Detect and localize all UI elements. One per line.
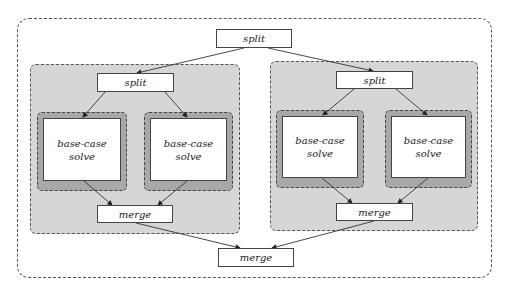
leaf-label-line2: solve — [416, 147, 442, 160]
right-leaf-node-2: base-case solve — [391, 116, 466, 178]
left-split-label: split — [125, 76, 147, 89]
leaf-label-line1: base-case — [164, 137, 213, 150]
left-split-node: split — [97, 73, 174, 92]
leaf-label-line2: solve — [307, 147, 333, 160]
left-merge-node: merge — [97, 205, 173, 223]
right-split-label: split — [364, 74, 386, 87]
leaf-label-line2: solve — [176, 150, 202, 163]
leaf-label-line1: base-case — [404, 134, 453, 147]
leaf-label-line1: base-case — [295, 134, 344, 147]
leaf-label-line1: base-case — [57, 137, 106, 150]
right-split-node: split — [336, 71, 413, 89]
bottom-merge-node: merge — [218, 248, 294, 267]
left-leaf-node-2: base-case solve — [150, 118, 227, 181]
right-merge-label: merge — [358, 206, 391, 219]
right-leaf-node-1: base-case solve — [282, 116, 358, 178]
bottom-merge-label: merge — [240, 251, 273, 264]
left-leaf-node-1: base-case solve — [43, 118, 121, 181]
right-merge-node: merge — [336, 203, 413, 221]
leaf-label-line2: solve — [69, 150, 95, 163]
left-merge-label: merge — [119, 208, 152, 221]
top-split-node: split — [216, 29, 292, 48]
top-split-label: split — [243, 32, 265, 45]
